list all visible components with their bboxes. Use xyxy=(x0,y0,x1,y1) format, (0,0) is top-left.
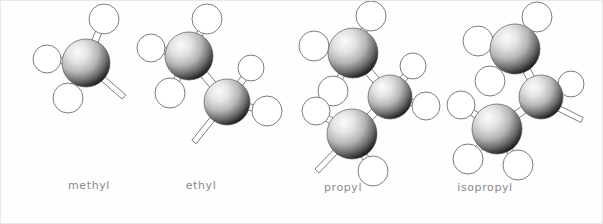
atom-hydrogen-ethyl-H4 xyxy=(238,55,264,81)
bond-isopropyl-C1-H1 xyxy=(512,15,539,51)
atom-carbon-ethyl-C1 xyxy=(165,32,213,80)
bond-propyl-C1-H3 xyxy=(330,51,356,92)
atom-hydrogen-isopropyl-H6 xyxy=(453,144,483,174)
bond-propyl-C2-C3 xyxy=(349,94,393,137)
atom-hydrogen-isopropyl-H2 xyxy=(463,26,493,56)
atom-hydrogen-isopropyl-H3 xyxy=(475,66,505,96)
bond-propyl-C3-H6 xyxy=(314,108,353,136)
atom-carbon-isopropyl-C3 xyxy=(472,104,522,154)
bond-methyl-C1-H1 xyxy=(83,18,107,64)
atom-hydrogen-methyl-H2 xyxy=(33,45,61,73)
atom-carbon-isopropyl-C2 xyxy=(519,75,563,119)
atom-carbon-methyl-C1 xyxy=(62,39,110,87)
atom-hydrogen-ethyl-H5 xyxy=(252,96,282,126)
bond-methyl-C1-H2 xyxy=(47,56,87,66)
open-bond-methyl-0 xyxy=(99,75,126,99)
bond-propyl-C1-H2 xyxy=(313,43,353,56)
open-bond-propyl-0 xyxy=(315,147,340,173)
bond-propyl-C2-H5 xyxy=(389,94,427,109)
atom-carbon-propyl-C2 xyxy=(368,75,412,119)
bond-propyl-C1-C2 xyxy=(350,50,393,99)
bond-isopropyl-C3-H7 xyxy=(494,127,521,166)
atom-hydrogen-isopropyl-H1 xyxy=(522,2,552,32)
bond-isopropyl-C2-H4 xyxy=(540,81,573,100)
bond-isopropyl-C1-H3 xyxy=(487,47,517,83)
atom-hydrogen-propyl-H1 xyxy=(356,1,386,31)
atom-carbon-isopropyl-C1 xyxy=(490,24,540,74)
bond-isopropyl-C3-H6 xyxy=(466,127,500,162)
bond-isopropyl-C1-H2 xyxy=(477,38,515,52)
alkyl-groups-figure: methyl ethyl propyl isopropyl xyxy=(0,0,603,224)
atom-hydrogen-propyl-H2 xyxy=(299,31,329,61)
atom-hydrogen-propyl-H4 xyxy=(400,53,426,79)
bond-layer xyxy=(47,15,584,173)
atom-hydrogen-methyl-H1 xyxy=(89,4,119,34)
atom-hydrogen-isopropyl-H4 xyxy=(558,71,584,97)
bond-ethyl-C1-H2 xyxy=(150,45,189,59)
bond-ethyl-C2-H5 xyxy=(226,99,267,114)
bond-ethyl-C1-H1 xyxy=(186,18,210,58)
atom-hydrogen-propyl-H5 xyxy=(412,92,440,120)
open-bond-ethyl-0 xyxy=(192,115,216,143)
label-isopropyl: isopropyl xyxy=(425,181,545,194)
bond-isopropyl-C2-C3 xyxy=(495,94,544,132)
atom-hydrogen-ethyl-H2 xyxy=(137,34,165,62)
bond-propyl-C2-H4 xyxy=(387,64,415,99)
bond-isopropyl-C3-H5 xyxy=(459,102,499,131)
atom-layer xyxy=(33,1,584,186)
bond-methyl-C1-H3 xyxy=(65,62,89,100)
bond-propyl-C3-H7 xyxy=(349,132,376,172)
atom-carbon-propyl-C1 xyxy=(328,28,378,78)
atom-carbon-ethyl-C2 xyxy=(204,79,250,125)
label-propyl: propyl xyxy=(293,181,393,194)
bond-ethyl-C1-H3 xyxy=(167,55,192,95)
atom-hydrogen-isopropyl-H7 xyxy=(503,150,533,180)
atom-hydrogen-ethyl-H3 xyxy=(155,78,185,108)
atom-hydrogen-isopropyl-H5 xyxy=(447,91,475,119)
atom-hydrogen-methyl-H3 xyxy=(53,83,83,113)
bond-propyl-C1-H1 xyxy=(350,15,374,55)
label-ethyl: ethyl xyxy=(151,179,251,192)
atom-hydrogen-propyl-H3 xyxy=(318,76,348,106)
bond-isopropyl-C1-C2 xyxy=(511,47,544,99)
atom-hydrogen-propyl-H6 xyxy=(302,97,330,125)
atom-hydrogen-ethyl-H1 xyxy=(192,4,222,34)
bond-ethyl-C2-H4 xyxy=(224,66,253,104)
open-bond-isopropyl-0 xyxy=(557,106,583,123)
bond-ethyl-C1-C2 xyxy=(186,53,230,104)
atom-carbon-propyl-C3 xyxy=(327,109,377,159)
label-methyl: methyl xyxy=(39,179,139,192)
